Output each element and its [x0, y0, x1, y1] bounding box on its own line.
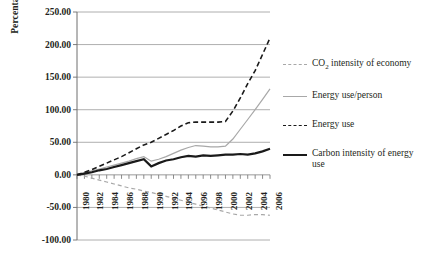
x-axis-tick-label: 1994: [184, 192, 194, 210]
x-axis-tick-label: 2004: [259, 192, 269, 210]
chart-container: Percentage growth 250.00200.00150.00100.…: [0, 0, 426, 263]
x-axis-tick-label: 1982: [95, 192, 105, 210]
x-axis-tick-label: 2002: [244, 192, 254, 210]
legend-swatch-icon: [283, 150, 307, 160]
legend-swatch-icon: [283, 121, 307, 131]
legend-swatch-icon: [283, 92, 307, 102]
x-axis-tick-label: 1990: [155, 192, 165, 210]
legend-label: CO2 intensity of economy: [312, 58, 411, 73]
legend-label: Energy use/person: [312, 90, 382, 101]
legend-swatch-icon: [283, 60, 307, 70]
legend-item[interactable]: CO2 intensity of economy: [283, 58, 423, 73]
legend-item[interactable]: Carbon intensity of energy use: [283, 148, 423, 170]
x-axis-tick-label: 1998: [214, 192, 224, 210]
x-axis-tick-label: 2000: [229, 192, 239, 210]
x-axis-tick-label: 2006: [274, 192, 284, 210]
x-axis-tick-label: 1986: [125, 192, 135, 210]
legend-label: Energy use: [312, 119, 354, 130]
legend-item[interactable]: Energy use/person: [283, 90, 423, 102]
x-axis-tick-label: 1984: [110, 192, 120, 210]
x-axis-tick-label: 1996: [199, 192, 209, 210]
x-axis-tick-label: 1980: [81, 192, 91, 210]
legend-label: Carbon intensity of energy use: [312, 148, 423, 170]
chart-legend: CO2 intensity of economyEnergy use/perso…: [283, 58, 423, 187]
x-axis-tick-label: 1992: [170, 192, 180, 210]
x-axis-tick-label: 1988: [140, 192, 150, 210]
legend-item[interactable]: Energy use: [283, 119, 423, 131]
